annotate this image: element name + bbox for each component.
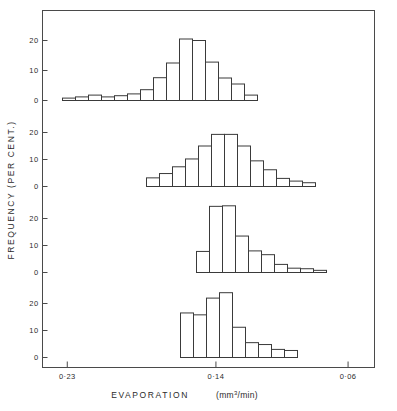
y-tick-label-2-20: 20 (29, 214, 38, 223)
histogram-panels (63, 39, 327, 358)
panel-2-bar-2 (173, 167, 186, 187)
x-tick-label-1: 0·14 (208, 372, 225, 381)
y-axis-title: FREQUENCY (PER CENT.) (6, 120, 16, 259)
x-axis-units-prefix: (mm (216, 390, 234, 400)
panel-4-bar-0 (181, 313, 194, 358)
panel-4-bar-5 (246, 343, 259, 358)
y-axis-tick-labels: 01020010200102001020 (29, 36, 38, 362)
x-tick-label-0: 0·23 (59, 372, 76, 381)
panel-4 (181, 293, 298, 358)
panel-1-bar-2 (89, 95, 102, 100)
panel-1-bar-11 (206, 62, 219, 100)
panel-3-bar-9 (314, 270, 327, 272)
panel-2-bar-7 (238, 146, 251, 187)
x-axis-ticks (67, 362, 348, 368)
y-tick-label-1-0: 0 (34, 182, 39, 191)
y-axis-ticks (43, 41, 48, 358)
panel-1-bar-6 (141, 90, 154, 101)
panel-2-bar-3 (186, 159, 199, 187)
panel-3-bar-2 (223, 206, 236, 273)
panel-2 (147, 134, 316, 186)
panel-2-bar-5 (212, 134, 225, 186)
panel-4-bar-1 (194, 315, 207, 358)
panel-2-bar-1 (160, 174, 173, 187)
panel-4-bar-3 (220, 293, 233, 358)
panel-2-bar-12 (303, 183, 316, 187)
x-axis-units: (mm3/min) (216, 390, 258, 401)
panel-1-bar-12 (219, 78, 232, 101)
panel-3 (197, 206, 327, 273)
y-tick-label-0-20: 20 (29, 36, 38, 45)
panel-3-bar-8 (301, 269, 314, 273)
y-tick-label-0-10: 10 (29, 66, 38, 75)
x-axis-units-suffix: /min) (238, 390, 258, 400)
panel-2-bar-10 (277, 178, 290, 186)
y-tick-label-3-20: 20 (29, 299, 38, 308)
panel-1-bar-7 (154, 78, 167, 101)
panel-1-bar-9 (180, 39, 193, 101)
panel-1-bar-3 (102, 97, 115, 101)
panel-3-bar-0 (197, 251, 210, 272)
panel-2-bar-0 (147, 178, 160, 187)
x-axis-title: EVAPORATION (111, 390, 189, 400)
x-tick-label-2: 0·06 (340, 372, 357, 381)
panel-3-bar-6 (275, 264, 288, 272)
y-tick-label-3-0: 0 (34, 353, 39, 362)
panel-3-bar-5 (262, 255, 275, 273)
panel-1-bar-14 (245, 95, 258, 100)
panel-2-bar-9 (264, 170, 277, 187)
y-tick-label-2-10: 10 (29, 241, 38, 250)
panel-4-bar-6 (259, 345, 272, 358)
panel-3-bar-3 (236, 236, 249, 272)
panel-1-bar-4 (115, 96, 128, 101)
panel-4-bar-4 (233, 327, 246, 357)
panel-3-bar-4 (249, 251, 262, 273)
x-axis-tick-labels: 0·230·140·06 (59, 372, 356, 381)
panel-2-bar-8 (251, 161, 264, 187)
panel-2-bar-6 (225, 134, 238, 186)
panel-1-bar-8 (167, 63, 180, 101)
histogram-figure: 01020010200102001020 0·230·140·06 FREQUE… (0, 0, 397, 411)
y-tick-label-2-0: 0 (34, 268, 39, 277)
panel-1-bar-1 (76, 97, 89, 101)
y-tick-label-3-10: 10 (29, 326, 38, 335)
panel-1 (63, 39, 258, 101)
panel-1-bar-13 (232, 84, 245, 101)
panel-4-bar-2 (207, 298, 220, 357)
y-tick-label-0-0: 0 (34, 96, 39, 105)
panel-4-bar-7 (272, 349, 285, 357)
panel-1-bar-10 (193, 41, 206, 101)
y-tick-label-1-20: 20 (29, 128, 38, 137)
panel-1-bar-0 (63, 98, 76, 100)
panel-1-bar-5 (128, 94, 141, 101)
panel-2-bar-11 (290, 181, 303, 186)
chart-page: 01020010200102001020 0·230·140·06 FREQUE… (0, 0, 397, 411)
panel-3-bar-7 (288, 268, 301, 272)
panel-4-bar-8 (285, 350, 298, 357)
y-tick-label-1-10: 10 (29, 155, 38, 164)
panel-2-bar-4 (199, 146, 212, 187)
panel-3-bar-1 (210, 206, 223, 272)
